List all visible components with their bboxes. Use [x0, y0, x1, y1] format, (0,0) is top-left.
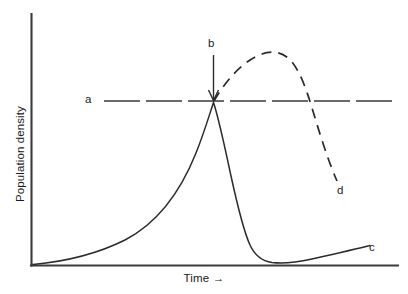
label-b: b — [208, 38, 214, 50]
curve-c-growth-crash — [33, 103, 370, 265]
curve-d-overshoot — [214, 52, 337, 181]
y-axis-title: Population density — [14, 89, 26, 219]
population-density-figure: a b c d Time → Population density — [0, 0, 408, 294]
label-a: a — [85, 94, 91, 106]
label-d: d — [337, 185, 343, 197]
label-c: c — [369, 242, 375, 254]
plot-canvas — [0, 0, 408, 294]
x-axis-title: Time → — [0, 272, 408, 284]
